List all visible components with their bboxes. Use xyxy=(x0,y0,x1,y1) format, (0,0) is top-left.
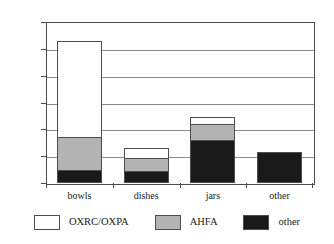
x-axis-label-dishes: dishes xyxy=(113,190,180,201)
chart-legend: OXRC/OXPAAHFAother xyxy=(0,211,334,233)
x-axis: bowlsdishesjarsother xyxy=(46,188,313,204)
legend-label: OXRC/OXPA xyxy=(69,216,129,228)
x-tick-mark xyxy=(312,183,313,188)
y-axis: 00.511.522.53 xyxy=(0,0,46,244)
x-axis-label-other: other xyxy=(246,190,313,201)
gridline-2.5 xyxy=(47,50,314,51)
x-tick-mark xyxy=(46,183,47,188)
legend-swatch-icon xyxy=(243,215,269,230)
legend-item-oxrc-oxpa[interactable]: OXRC/OXPA xyxy=(34,215,129,230)
x-axis-label-bowls: bowls xyxy=(46,190,113,201)
stacked-bar-chart: 00.511.522.53 bowlsdishesjarsother OXRC/… xyxy=(0,0,334,244)
x-tick-mark xyxy=(113,183,114,188)
legend-item-ahfa[interactable]: AHFA xyxy=(155,215,218,230)
gridline-1.5 xyxy=(47,104,314,105)
legend-label: AHFA xyxy=(190,216,218,228)
legend-label: other xyxy=(278,216,300,228)
x-axis-label-jars: jars xyxy=(180,190,247,201)
gridline-2 xyxy=(47,77,314,78)
gridline-1 xyxy=(47,130,314,131)
x-tick-mark xyxy=(180,183,181,188)
legend-swatch-icon xyxy=(34,215,60,230)
plot-area xyxy=(46,22,315,185)
legend-item-other[interactable]: other xyxy=(243,215,300,230)
gridline-0.5 xyxy=(47,157,314,158)
x-tick-mark xyxy=(246,183,247,188)
legend-swatch-icon xyxy=(155,215,181,230)
